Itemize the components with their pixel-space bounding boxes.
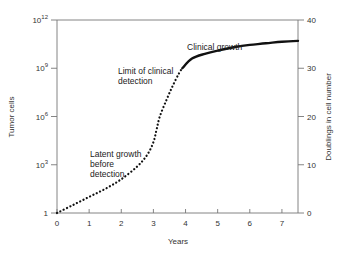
- y2-axis-title: Doublings in cell number: [324, 73, 333, 161]
- x-tick-label: 0: [55, 219, 60, 228]
- latent-growth-dotted-line: [57, 68, 182, 213]
- y-tick-label: 103: [36, 159, 49, 170]
- tumor-growth-chart: 0123456711031061091012010203040 Clinical…: [0, 0, 347, 254]
- y-tick-label: 1: [44, 209, 49, 218]
- annotation-limit-detection-line2: detection: [118, 76, 153, 86]
- y-tick-label: 106: [36, 111, 49, 122]
- x-tick-label: 7: [280, 219, 285, 228]
- x-tick-label: 1: [87, 219, 92, 228]
- y2-tick-label: 10: [307, 161, 316, 170]
- y2-tick-label: 0: [307, 209, 312, 218]
- y2-tick-label: 40: [307, 16, 316, 25]
- annotation-latent-line2: before: [90, 159, 114, 169]
- x-tick-label: 2: [119, 219, 124, 228]
- y2-tick-label: 30: [307, 64, 316, 73]
- x-axis-title: Years: [168, 237, 188, 246]
- y-tick-label: 109: [36, 62, 49, 73]
- annotation-latent-line1: Latent growth: [90, 149, 142, 159]
- annotation-latent-line3: detection: [90, 169, 125, 179]
- x-tick-label: 6: [248, 219, 253, 228]
- annotation-limit-detection-line1: Limit of clinical: [118, 66, 173, 76]
- y-tick-label: 1012: [32, 14, 48, 25]
- x-tick-label: 5: [215, 219, 220, 228]
- axes: 0123456711031061091012010203040: [32, 14, 316, 228]
- y-axis-title: Tumor cells: [7, 96, 16, 137]
- annotation-clinical-growth: Clinical growth: [187, 42, 243, 52]
- x-tick-label: 4: [183, 219, 188, 228]
- series-layer: [57, 41, 298, 213]
- y2-tick-label: 20: [307, 113, 316, 122]
- x-tick-label: 3: [151, 219, 156, 228]
